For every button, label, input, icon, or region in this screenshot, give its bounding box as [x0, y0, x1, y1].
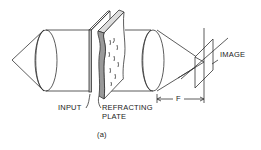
source-cone	[12, 30, 44, 91]
leader-lines	[86, 94, 101, 108]
image-label: IMAGE	[220, 51, 245, 59]
refracting-plate	[98, 10, 125, 99]
input-label: INPUT	[58, 104, 82, 112]
refracting-label: REFRACTING	[102, 104, 153, 112]
focal-length-label: F	[176, 95, 181, 103]
plate-label: PLATE	[102, 113, 126, 121]
image-plane	[178, 28, 228, 103]
fourier-lens	[142, 30, 164, 91]
collimating-lens	[35, 30, 57, 91]
optical-diagram	[0, 0, 261, 150]
figure-caption: (a)	[97, 131, 107, 139]
